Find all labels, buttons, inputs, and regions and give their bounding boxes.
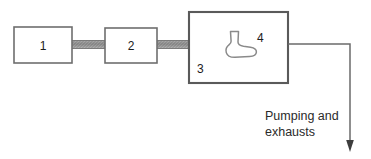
chamber-3-label: 3 bbox=[197, 62, 204, 76]
component-box-1[interactable]: 1 bbox=[14, 27, 72, 63]
arrow-down-icon bbox=[346, 140, 354, 152]
process-flow-diagram: 1 2 3 4 Pumping and exhausts bbox=[0, 0, 371, 159]
vessel-4-label: 4 bbox=[257, 31, 264, 45]
connector-box1-box2 bbox=[72, 40, 105, 49]
diagram-canvas: 1 2 3 4 Pumping and exhausts bbox=[0, 0, 371, 159]
connector-box2-chamber3 bbox=[157, 40, 190, 49]
exhaust-caption-line-2: exhausts bbox=[265, 125, 315, 139]
box-2-label: 2 bbox=[128, 39, 135, 53]
box-1-label: 1 bbox=[40, 39, 47, 53]
component-box-2[interactable]: 2 bbox=[105, 28, 157, 63]
exhaust-caption: Pumping and exhausts bbox=[265, 109, 339, 139]
exhaust-caption-line-1: Pumping and bbox=[265, 109, 339, 123]
